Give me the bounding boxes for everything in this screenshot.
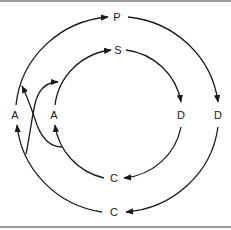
outer-label-left: A [11, 109, 19, 121]
inner-label-bottom: C [110, 172, 118, 184]
outer-label-top: P [113, 11, 120, 23]
outer-arc-a-to-p [16, 17, 108, 105]
inner-label-left: A [50, 109, 58, 121]
inner-arc-a-to-s [55, 50, 111, 105]
outer-arc-p-to-d [128, 17, 218, 102]
outer-arc-d-to-c [126, 127, 218, 212]
inner-arc-c-to-a [55, 125, 104, 178]
inner-label-right: D [177, 109, 185, 121]
inner-arc-d-to-c [124, 127, 181, 178]
outer-arc-c-to-a [17, 125, 102, 212]
inner-label-top: S [114, 44, 121, 56]
outer-label-right: D [214, 109, 222, 121]
inner-arc-s-to-d [126, 50, 181, 102]
outer-label-bottom: C [110, 206, 118, 218]
cycle-diagram: P D C A S D C A [0, 0, 231, 230]
